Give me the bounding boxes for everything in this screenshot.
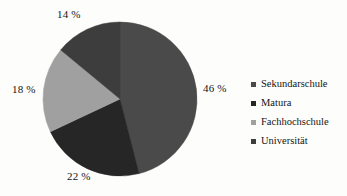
slice-label-matura: 22 % [67, 170, 91, 182]
legend-swatch-icon [251, 139, 256, 144]
pie-chart-figure: 14 % 46 % 22 % 18 % Sekundarschule Matur… [0, 0, 347, 196]
legend-item-fachhochschule: Fachhochschule [251, 114, 345, 130]
legend-swatch-icon [251, 120, 256, 125]
legend-item-universitaet: Universität [251, 133, 345, 149]
legend-label: Matura [261, 97, 291, 109]
pie-slice-group [43, 22, 197, 176]
legend-swatch-icon [251, 82, 256, 87]
pie-plot-area: 14 % 46 % 22 % 18 % [0, 0, 232, 196]
legend-label: Universität [261, 135, 308, 147]
legend-label: Sekundarschule [261, 78, 327, 90]
legend-item-sekundarschule: Sekundarschule [251, 76, 345, 92]
slice-label-fachhochschule: 18 % [12, 83, 36, 95]
slice-label-sekundarschule: 46 % [203, 82, 227, 94]
pie-svg [0, 0, 232, 196]
legend-item-matura: Matura [251, 95, 345, 111]
legend-label: Fachhochschule [261, 116, 329, 128]
slice-label-universitaet: 14 % [57, 8, 81, 20]
chart-legend: Sekundarschule Matura Fachhochschule Uni… [251, 76, 345, 152]
legend-swatch-icon [251, 101, 256, 106]
